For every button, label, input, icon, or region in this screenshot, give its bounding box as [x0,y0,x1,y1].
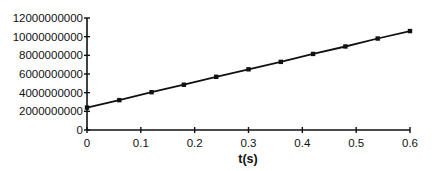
x-tick-label: 0 [84,137,90,149]
y-tick-label: 0 [77,124,83,136]
data-point-marker [149,90,153,94]
y-tick-label: 10000000000 [13,31,83,43]
x-tick-label: 0.1 [133,137,149,149]
x-tick-label: 0.5 [348,137,364,149]
data-point-marker [214,75,218,79]
data-point-marker [343,44,347,48]
y-axis: 0200000000040000000006000000000800000000… [13,12,90,136]
x-tick-label: 0.3 [241,137,257,149]
data-point-marker [311,52,315,56]
y-tick-label: 6000000000 [19,68,83,80]
y-tick-label: 12000000000 [13,12,83,24]
y-tick-label: 2000000000 [19,105,83,117]
x-tick-label: 0.6 [402,137,418,149]
x-axis: 00.10.20.30.40.50.6 [84,127,418,149]
x-tick-label: 0.2 [187,137,203,149]
data-point-marker [85,105,89,109]
data-point-marker [279,60,283,64]
line-chart: 0200000000040000000006000000000800000000… [0,0,437,171]
y-tick-label: 4000000000 [19,87,83,99]
data-point-marker [408,29,412,33]
x-tick-label: 0.4 [294,137,311,149]
data-series [85,29,412,110]
data-point-marker [182,83,186,87]
data-point-marker [117,98,121,102]
x-axis-title: t(s) [238,152,257,166]
y-tick-label: 8000000000 [19,49,83,61]
data-point-marker [376,36,380,40]
data-point-marker [246,67,250,71]
